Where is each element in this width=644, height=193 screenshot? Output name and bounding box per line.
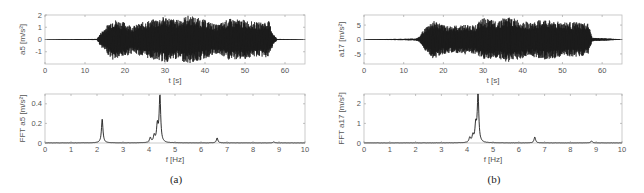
y-tick-label: 0.4 <box>32 99 42 108</box>
x-tick-label: 6 <box>199 145 203 154</box>
y-tick-label: 2 <box>38 11 42 20</box>
x-tick-label: 0 <box>43 66 47 75</box>
x-tick-label: 7 <box>543 145 547 154</box>
x-tick-label: 10 <box>618 145 626 154</box>
x-tick-label: 0 <box>362 145 366 154</box>
y-tick-label: 1 <box>357 119 361 128</box>
y-axis-label: FFT a5 [m/s²] <box>18 95 27 143</box>
y-tick-label: 0.2 <box>32 119 42 128</box>
panel-label-a: (a) <box>170 173 183 186</box>
x-tick-label: 5 <box>173 145 177 154</box>
x-axis-label: f [Hz] <box>484 155 503 164</box>
x-tick-label: 0 <box>43 145 47 154</box>
x-tick-label: 8 <box>251 145 255 154</box>
x-tick-label: 9 <box>277 145 281 154</box>
y-axis-label: a17 [m/s²] <box>337 22 346 58</box>
x-tick-label: 1 <box>388 145 392 154</box>
figure: 0102030405060-1012t [s]a5 [m/s²] 0123456… <box>0 0 644 193</box>
x-tick-label: 20 <box>121 66 129 75</box>
x-tick-label: 10 <box>301 145 309 154</box>
x-tick-label: 10 <box>81 66 89 75</box>
plot-a17-time-history: 0102030405060-505t [s]a17 [m/s²] <box>337 15 622 85</box>
y-tick-label: 0 <box>357 139 361 148</box>
y-tick-label: 5 <box>357 21 361 30</box>
x-tick-label: 30 <box>161 66 169 75</box>
x-tick-label: 2 <box>414 145 418 154</box>
axes-box <box>45 94 305 143</box>
axes-box <box>364 94 622 143</box>
x-tick-label: 60 <box>281 66 289 75</box>
panel-label-b: (b) <box>488 173 501 186</box>
x-tick-label: 8 <box>568 145 572 154</box>
x-tick-label: 0 <box>362 66 366 75</box>
x-tick-label: 4 <box>147 145 151 154</box>
x-axis-label: t [s] <box>487 76 500 85</box>
x-tick-label: 2 <box>95 145 99 154</box>
x-tick-label: 9 <box>594 145 598 154</box>
x-tick-label: 5 <box>491 145 495 154</box>
x-tick-label: 40 <box>519 66 527 75</box>
x-axis-label: f [Hz] <box>166 155 185 164</box>
x-tick-label: 4 <box>465 145 469 154</box>
x-tick-label: 60 <box>598 66 606 75</box>
x-tick-label: 10 <box>400 66 408 75</box>
y-axis-label: a5 [m/s²] <box>18 24 27 55</box>
x-tick-label: 3 <box>121 145 125 154</box>
x-tick-label: 7 <box>225 145 229 154</box>
x-tick-label: 20 <box>439 66 447 75</box>
x-tick-label: 3 <box>439 145 443 154</box>
y-tick-label: -5 <box>354 50 361 59</box>
x-tick-label: 6 <box>517 145 521 154</box>
y-axis-label: FFT a17 [m/s²] <box>337 92 346 144</box>
y-tick-label: -1 <box>35 47 42 56</box>
y-tick-label: 0 <box>357 35 361 44</box>
x-tick-label: 50 <box>241 66 249 75</box>
y-tick-label: 0 <box>38 35 42 44</box>
plot-a5-time-history: 0102030405060-1012t [s]a5 [m/s²] <box>18 11 305 85</box>
x-axis-label: t [s] <box>169 76 182 85</box>
plot-a5-fft: 01234567891000.20.4f [Hz]FFT a5 [m/s²] <box>18 94 309 164</box>
x-tick-label: 50 <box>558 66 566 75</box>
plot-a17-fft: 012345678910012f [Hz]FFT a17 [m/s²] <box>337 92 626 164</box>
y-tick-label: 0 <box>38 139 42 148</box>
y-tick-label: 1 <box>38 23 42 32</box>
x-tick-label: 30 <box>479 66 487 75</box>
y-tick-label: 2 <box>357 99 361 108</box>
x-tick-label: 1 <box>69 145 73 154</box>
x-tick-label: 40 <box>201 66 209 75</box>
